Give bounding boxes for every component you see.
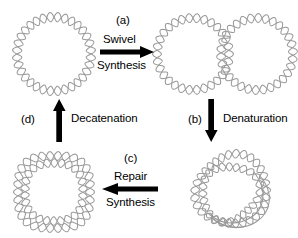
structure-denatured-catenane [182, 146, 290, 238]
structure-catenated-dimer [8, 146, 104, 238]
step-a-text-above: Swivel [103, 33, 136, 46]
step-label-c: (c) [124, 152, 137, 165]
arrow-up-decatenation [53, 99, 66, 142]
step-d-text-beside: Decatenation [71, 112, 138, 125]
step-c-text-above: Repair [114, 170, 147, 183]
arrow-right-swivel-synthesis [100, 46, 154, 59]
structure-parental-circular-duplex [8, 8, 100, 100]
step-a-text-below: Synthesis [97, 59, 146, 72]
arrow-down-denaturation [205, 99, 218, 142]
step-label-b: (b) [188, 113, 202, 126]
dna-replication-cycle-figure: (a) Swivel Synthesis (b) Denaturation (c… [0, 0, 298, 238]
arrow-left-repair-synthesis [102, 183, 158, 196]
step-c-text-below: Synthesis [106, 196, 155, 209]
step-label-d: (d) [21, 113, 35, 126]
step-b-text-beside: Denaturation [223, 112, 288, 125]
step-label-a: (a) [116, 14, 130, 27]
structure-replicated-figure-eight [152, 8, 298, 100]
